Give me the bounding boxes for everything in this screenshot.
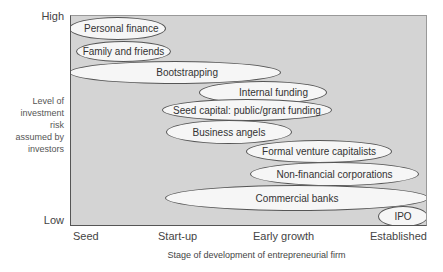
y-title-line: Level of xyxy=(0,95,64,107)
y-title-line: risk xyxy=(0,119,64,131)
x-tick-seed: Seed xyxy=(73,230,99,242)
y-axis-title: Level of investment risk assumed by inve… xyxy=(0,95,64,155)
ellipse-seed-capital: Seed capital: public/grant funding xyxy=(162,99,332,121)
y-axis-low-label: Low xyxy=(14,214,64,226)
ellipse-ipo: IPO xyxy=(378,206,427,226)
y-title-line: assumed by xyxy=(0,131,64,143)
x-tick-established: Established xyxy=(370,230,427,242)
ellipse-business-angels: Business angels xyxy=(166,120,292,144)
x-tick-early-growth: Early growth xyxy=(253,230,314,242)
ellipse-family-and-friends: Family and friends xyxy=(76,41,171,62)
ellipse-personal-finance: Personal finance xyxy=(70,17,166,40)
y-title-line: investors xyxy=(0,143,64,155)
plot-area: Personal finance Family and friends Boot… xyxy=(70,15,427,226)
y-axis-high-label: High xyxy=(14,10,64,22)
x-axis-title: Stage of development of entrepreneurial … xyxy=(0,250,443,260)
y-title-line: investment xyxy=(0,107,64,119)
ellipse-non-financial-corporations: Non-financial corporations xyxy=(250,162,419,186)
ellipse-formal-venture-capitalists: Formal venture capitalists xyxy=(246,140,392,163)
x-tick-start-up: Start-up xyxy=(158,230,197,242)
